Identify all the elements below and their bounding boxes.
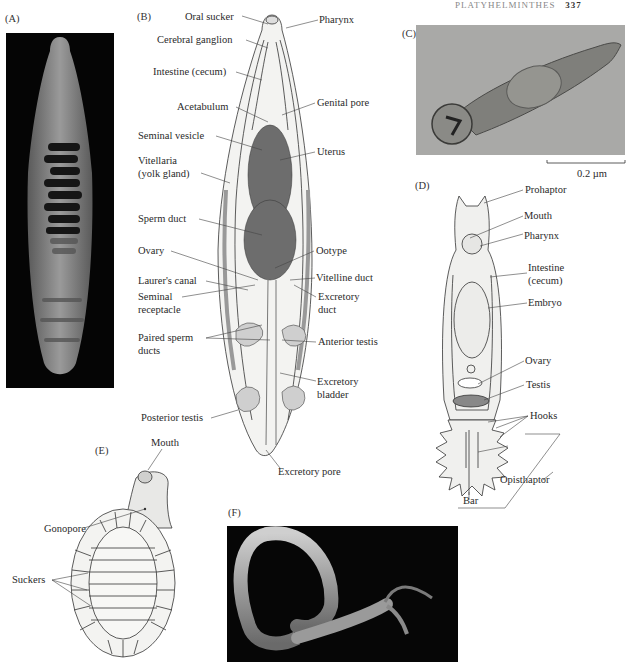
label-suckers: Suckers xyxy=(12,574,45,586)
panel-f-photo xyxy=(227,526,458,662)
label-mouth-e: Mouth xyxy=(151,437,179,449)
label-gonopore: Gonopore xyxy=(44,523,86,535)
